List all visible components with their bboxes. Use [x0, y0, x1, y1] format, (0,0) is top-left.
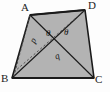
angle-label-theta-right: θ [64, 28, 68, 37]
vertex-label-b: B [1, 73, 8, 84]
vertex-label-c: C [95, 74, 102, 85]
quadrilateral-diagram-svg [0, 0, 110, 92]
vertex-label-a: A [21, 2, 29, 13]
vertex-label-d: D [88, 0, 96, 11]
angle-label-theta-left: θ [46, 29, 50, 38]
geometry-figure: A D C B p θ θ q [0, 0, 110, 92]
